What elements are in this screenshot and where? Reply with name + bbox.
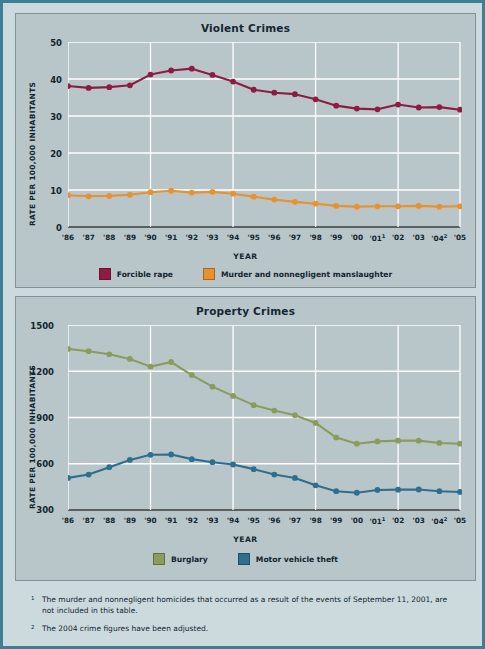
data-point bbox=[210, 459, 216, 465]
data-point bbox=[457, 441, 462, 447]
data-point bbox=[68, 192, 71, 198]
data-point bbox=[127, 356, 133, 362]
data-point bbox=[354, 204, 360, 210]
data-point bbox=[86, 193, 92, 199]
data-point bbox=[230, 79, 236, 85]
data-point bbox=[148, 189, 154, 195]
footnote-2-text: The 2004 crime figures have been adjuste… bbox=[42, 624, 451, 635]
data-point bbox=[436, 440, 442, 446]
series-line bbox=[68, 191, 460, 207]
data-point bbox=[106, 351, 112, 357]
data-point bbox=[333, 103, 339, 109]
data-point bbox=[168, 188, 174, 194]
legend-item-forcible-rape[interactable]: Forcible rape bbox=[99, 268, 173, 280]
data-point bbox=[395, 487, 401, 493]
property-ytick-300: 300 bbox=[20, 505, 54, 515]
data-point bbox=[251, 402, 257, 408]
data-point bbox=[395, 203, 401, 209]
data-point bbox=[313, 420, 319, 426]
data-point bbox=[189, 372, 195, 378]
property-ytick-900: 900 bbox=[20, 413, 54, 423]
data-point bbox=[148, 364, 154, 370]
x-tick-05: '05 bbox=[447, 516, 473, 525]
data-point bbox=[436, 104, 442, 110]
data-point bbox=[210, 189, 216, 195]
violent-ytick-40: 40 bbox=[28, 75, 62, 85]
data-point bbox=[354, 490, 360, 496]
data-point bbox=[210, 72, 216, 78]
violent-ytick-20: 20 bbox=[28, 149, 62, 159]
data-point bbox=[271, 408, 277, 414]
data-point bbox=[354, 106, 360, 112]
data-point bbox=[416, 105, 422, 111]
property-legend: Burglary Motor vehicle theft bbox=[16, 553, 475, 565]
legend-swatch-burglary bbox=[153, 553, 165, 565]
data-point bbox=[127, 457, 133, 463]
data-point bbox=[271, 90, 277, 96]
figure-container: Violent Crimes RATE PER 100,000 INHABITA… bbox=[0, 0, 485, 649]
footnote-1-text: The murder and nonnegligent homicides th… bbox=[42, 595, 451, 617]
property-crimes-panel: Property Crimes RATE PER 100,000 INHABIT… bbox=[15, 296, 476, 581]
data-point bbox=[106, 84, 112, 90]
legend-item-burglary[interactable]: Burglary bbox=[153, 553, 208, 565]
legend-item-murder[interactable]: Murder and nonnegligent manslaughter bbox=[203, 268, 392, 280]
legend-item-motor-vehicle-theft[interactable]: Motor vehicle theft bbox=[238, 553, 338, 565]
data-point bbox=[230, 393, 236, 399]
footnote-2-marker: 2 bbox=[31, 624, 34, 632]
data-point bbox=[292, 412, 298, 418]
data-point bbox=[375, 487, 381, 493]
property-y-axis-label: RATE PER 100,000 INHABITANTS bbox=[28, 365, 37, 509]
data-point bbox=[68, 346, 71, 352]
property-ytick-600: 600 bbox=[20, 459, 54, 469]
data-point bbox=[333, 203, 339, 209]
property-x-axis-label: YEAR bbox=[16, 535, 475, 544]
data-point bbox=[416, 487, 422, 493]
data-point bbox=[271, 472, 277, 478]
data-point bbox=[86, 472, 92, 478]
data-point bbox=[333, 488, 339, 494]
data-point bbox=[313, 482, 319, 488]
data-point bbox=[375, 203, 381, 209]
legend-swatch-motor-vehicle-theft bbox=[238, 553, 250, 565]
violent-ytick-30: 30 bbox=[28, 112, 62, 122]
data-point bbox=[436, 488, 442, 494]
data-point bbox=[168, 359, 174, 365]
data-point bbox=[148, 452, 154, 458]
footnote-2: 2 The 2004 crime figures have been adjus… bbox=[31, 624, 451, 635]
data-point bbox=[313, 201, 319, 207]
violent-crimes-panel: Violent Crimes RATE PER 100,000 INHABITA… bbox=[15, 13, 476, 288]
violent-x-axis-label: YEAR bbox=[16, 252, 475, 261]
data-point bbox=[68, 83, 71, 89]
data-point bbox=[127, 192, 133, 198]
data-point bbox=[168, 68, 174, 74]
data-point bbox=[457, 489, 462, 495]
legend-label-burglary: Burglary bbox=[171, 555, 208, 564]
property-chart-title: Property Crimes bbox=[16, 305, 475, 317]
property-ytick-1200: 1200 bbox=[20, 367, 54, 377]
data-point bbox=[395, 438, 401, 444]
data-point bbox=[292, 91, 298, 97]
data-point bbox=[127, 82, 133, 88]
data-point bbox=[436, 204, 442, 210]
series-line bbox=[68, 69, 460, 110]
data-point bbox=[189, 66, 195, 72]
data-point bbox=[251, 87, 257, 93]
violent-ytick-0: 0 bbox=[28, 223, 62, 233]
data-point bbox=[375, 106, 381, 112]
legend-label-motor-vehicle-theft: Motor vehicle theft bbox=[256, 555, 338, 564]
series-line bbox=[68, 349, 460, 444]
data-point bbox=[375, 438, 381, 444]
data-point bbox=[210, 384, 216, 390]
data-point bbox=[457, 107, 462, 113]
data-point bbox=[86, 348, 92, 354]
data-point bbox=[416, 203, 422, 209]
data-point bbox=[313, 96, 319, 102]
data-point bbox=[333, 435, 339, 441]
property-ytick-1500: 1500 bbox=[20, 321, 54, 331]
violent-chart-title: Violent Crimes bbox=[16, 22, 475, 34]
legend-label-forcible-rape: Forcible rape bbox=[117, 270, 173, 279]
violent-ytick-10: 10 bbox=[28, 186, 62, 196]
data-point bbox=[251, 194, 257, 200]
data-point bbox=[271, 197, 277, 203]
legend-swatch-forcible-rape bbox=[99, 268, 111, 280]
